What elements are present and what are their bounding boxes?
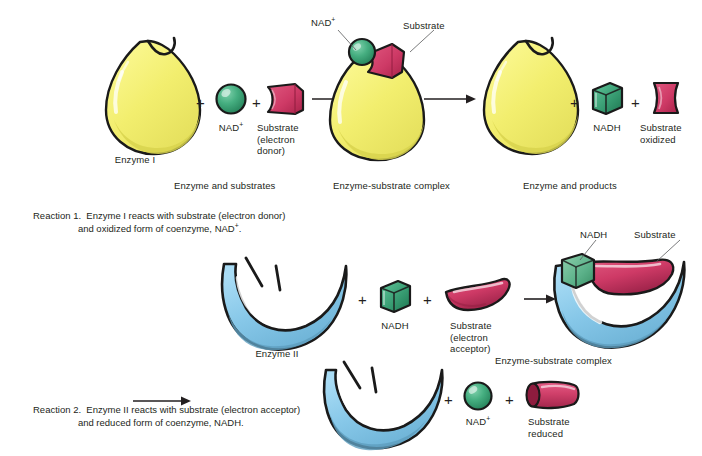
plus-sign-3: + <box>570 95 579 110</box>
callout-nad-plus-label: NAD+ <box>311 17 335 29</box>
plus-sign-4: + <box>631 95 640 110</box>
reaction-2-caption: Reaction 2. Enzyme II reacts with substr… <box>33 404 300 429</box>
nad-plus-sphere-2 <box>462 380 494 412</box>
figure-canvas: Enzyme I + NAD+ + <box>0 0 702 456</box>
plus-sign-7: + <box>444 392 453 407</box>
plus-sign-2: + <box>252 95 261 110</box>
panel-caption-enzyme-and-products: Enzyme and products <box>523 180 617 192</box>
reaction-2-number: Reaction 2. <box>33 404 81 415</box>
enzyme-ii-product-shape <box>318 362 448 454</box>
reaction-1-period: . <box>239 223 242 234</box>
plus-sign-5: + <box>358 292 367 307</box>
reaction-2-line1: Enzyme II reacts with substrate (electro… <box>86 404 300 415</box>
substrate-oxidized-shape <box>648 80 686 118</box>
callout-nad-charge: + <box>331 16 335 23</box>
nadh-cube-2 <box>376 278 414 316</box>
panel-caption-enzyme-substrate-complex-1: Enzyme-substrate complex <box>333 180 450 192</box>
nad-plus-label-2: NAD+ <box>449 416 507 428</box>
substrate-reduced-shape <box>522 378 584 414</box>
substrate-reduced-label: Substratereduced <box>528 416 598 439</box>
callout-lines-complex-1 <box>330 28 450 58</box>
enzyme-i-free-shape <box>100 28 210 158</box>
nad-plus-charge-2: + <box>486 415 490 422</box>
reaction-arrow-2 <box>424 92 478 106</box>
reaction-1-number: Reaction 1. <box>33 210 81 221</box>
substrate-donor-shape <box>265 82 307 116</box>
enzyme-i-label: Enzyme I <box>95 154 175 166</box>
enzyme-ii-label: Enzyme II <box>232 348 322 360</box>
panel-caption-enzyme-and-substrates: Enzyme and substrates <box>174 180 275 192</box>
substrate-donor-label: Substrate(electrondonor) <box>257 122 327 157</box>
plus-sign-1: + <box>196 95 205 110</box>
enzyme-i-product-shape <box>478 28 588 158</box>
enzyme-ii-free-shape <box>216 256 356 356</box>
panel-caption-enzyme-substrate-complex-2: Enzyme-substrate complex <box>495 355 612 367</box>
substrate-oxidized-label: Substrateoxidized <box>640 122 702 145</box>
callout-substrate-label-2: Substrate <box>634 229 676 241</box>
substrate-acceptor-label: Substrate(electronacceptor) <box>450 320 520 355</box>
callout-substrate-label: Substrate <box>403 20 445 32</box>
reaction-2-line2: and reduced form of coenzyme, NADH. <box>78 417 244 428</box>
nadh-label-2: NADH <box>365 320 425 332</box>
nad-plus-charge-1: + <box>239 121 243 128</box>
nadh-label-1: NADH <box>577 122 637 134</box>
reaction-1-caption: Reaction 1. Enzyme I reacts with substra… <box>33 210 285 235</box>
reaction-1-line2: and oxidized form of coenzyme, NAD <box>78 223 235 234</box>
substrate-acceptor-shape <box>442 276 516 318</box>
reaction-1-line1: Enzyme I reacts with substrate (electron… <box>86 210 285 221</box>
plus-sign-8: + <box>505 392 514 407</box>
nad-plus-label-1: NAD+ <box>201 122 261 134</box>
nad-plus-sphere-1 <box>214 82 248 116</box>
plus-sign-6: + <box>423 292 432 307</box>
callout-nadh-label: NADH <box>580 229 607 241</box>
nadh-cube-1 <box>588 80 626 118</box>
